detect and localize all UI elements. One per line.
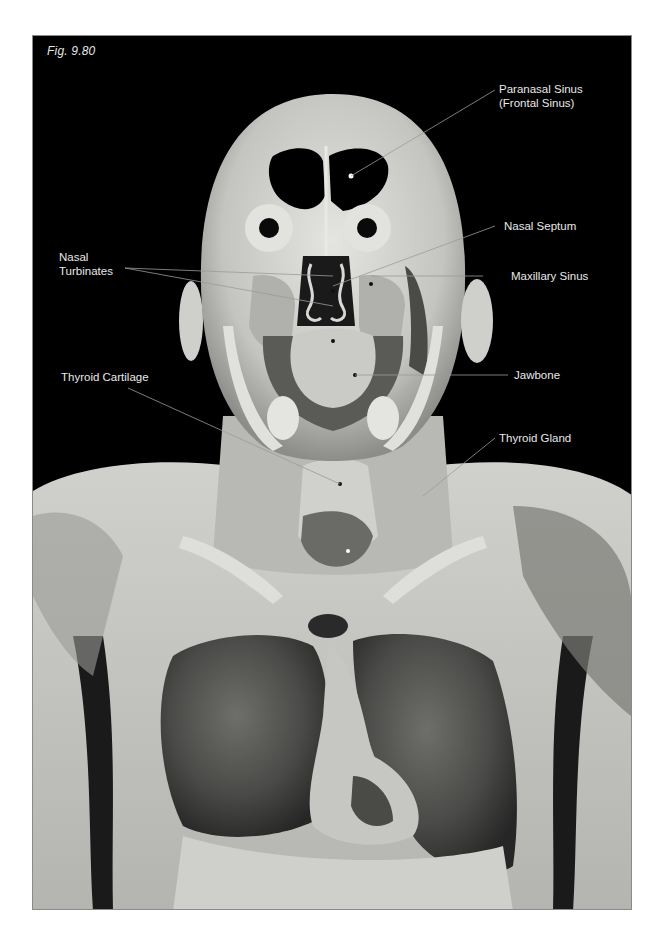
- label-nasal-turbinates: Nasal Turbinates: [59, 250, 113, 278]
- label-thyroid-cartilage: Thyroid Cartilage: [61, 370, 149, 384]
- label-paranasal-sinus: Paranasal Sinus (Frontal Sinus): [499, 82, 583, 110]
- figure-caption: Fig. 9.80: [47, 44, 96, 58]
- label-maxillary-sinus: Maxillary Sinus: [511, 269, 588, 283]
- label-jawbone: Jawbone: [514, 368, 560, 382]
- anatomy-figure: Fig. 9.80 Paranasal Sinus (Frontal Sinus…: [32, 35, 632, 910]
- label-nasal-septum: Nasal Septum: [504, 219, 576, 233]
- label-thyroid-gland: Thyroid Gland: [499, 431, 571, 445]
- anatomical-section-photo: [33, 36, 632, 910]
